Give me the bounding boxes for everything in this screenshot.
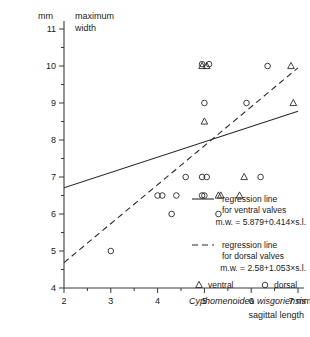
- y-tick-label: 9: [51, 98, 56, 108]
- legend-marker-label-dorsal: dorsal: [274, 280, 297, 290]
- legend-dorsal-line2: for dorsal valves: [222, 251, 284, 261]
- species-name: Cyphomenoidea wisgoriensis: [189, 296, 307, 306]
- y-tick-label: 10: [46, 61, 56, 71]
- data-point-ventral: [290, 99, 297, 105]
- data-point-dorsal: [174, 193, 180, 199]
- data-point-dorsal: [216, 211, 222, 217]
- data-point-dorsal: [265, 63, 271, 69]
- y-tick-label: 7: [51, 172, 56, 182]
- y-tick-label: 5: [51, 246, 56, 256]
- data-point-dorsal: [244, 100, 250, 106]
- legend-marker-label-ventral: ventral: [208, 280, 234, 290]
- legend-dorsal-equation: m.w. = 2.58+1.053×s.l.: [220, 263, 306, 273]
- data-point-dorsal: [258, 174, 264, 180]
- y-axis-title-line1: maximum: [75, 11, 114, 21]
- chart-canvas: 4567891011234567 mmmmmaximumwidthsagitta…: [0, 0, 310, 337]
- scatter-plot-figure: 4567891011234567 mmmmmaximumwidthsagitta…: [0, 0, 310, 337]
- legend-ventral-equation: m.w. = 5.879+0.414×s.l.: [216, 217, 307, 227]
- data-point-dorsal: [202, 100, 208, 106]
- y-tick-label: 4: [51, 283, 56, 293]
- x-axis-title: sagittal length: [248, 310, 304, 320]
- legend-dorsal-line1: regression line: [222, 240, 278, 250]
- data-point-dorsal: [108, 248, 114, 254]
- data-point-ventral: [241, 173, 248, 179]
- y-axis-unit-label: mm: [38, 11, 53, 21]
- legend-ventral-line1: regression line: [222, 194, 278, 204]
- legend-triangle-marker: [196, 281, 203, 287]
- data-point-dorsal: [183, 174, 189, 180]
- data-point-ventral: [288, 62, 295, 68]
- y-tick-label: 6: [51, 209, 56, 219]
- legend-circle-marker: [262, 282, 268, 288]
- y-tick-label: 11: [47, 24, 56, 34]
- data-point-ventral: [201, 118, 208, 124]
- y-tick-label: 8: [51, 135, 56, 145]
- regression-line-dorsal: [64, 68, 298, 263]
- x-tick-label: 3: [108, 296, 113, 306]
- x-tick-label: 2: [61, 296, 66, 306]
- legend-ventral-line2: for ventral valves: [222, 205, 286, 215]
- y-axis-title-line2: width: [74, 23, 96, 33]
- x-tick-label: 4: [155, 296, 160, 306]
- data-point-dorsal: [169, 211, 175, 217]
